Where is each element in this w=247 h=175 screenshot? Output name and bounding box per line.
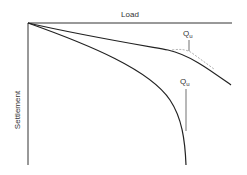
qu-label-upper: Qu (183, 29, 193, 39)
load-axis-label: Load (121, 10, 139, 19)
load-settlement-diagram: Load Settlement Qu Qu (0, 0, 247, 175)
plunging-failure-curve (28, 23, 186, 165)
settlement-axis-label: Settlement (13, 90, 22, 129)
gradual-failure-curve (28, 23, 231, 85)
qu-label-lower: Qu (180, 77, 190, 87)
